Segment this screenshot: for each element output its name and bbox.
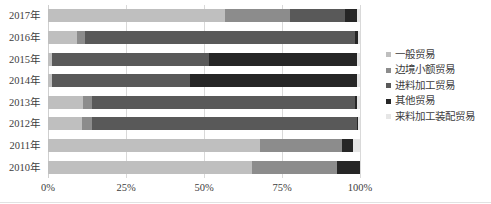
- bar-segment: [290, 9, 345, 22]
- x-axis-label-50pct: 50%: [194, 182, 213, 194]
- legend-label: 来料加工装配贸易: [395, 111, 475, 123]
- legend-item[interactable]: 一般贸易: [386, 47, 490, 63]
- bar-segment: [48, 139, 260, 152]
- bar-segment: [357, 53, 360, 66]
- legend-item[interactable]: 其他贸易: [386, 94, 490, 110]
- stacked-bar-chart: 2017年2016年2015年2014年2013年2012年2011年2010年…: [0, 0, 491, 204]
- bar-row: [48, 31, 360, 44]
- y-axis-label-2012: 2012年: [9, 118, 40, 129]
- bar-segment: [77, 31, 85, 44]
- bar-segment: [345, 9, 357, 22]
- x-axis-label-100pct: 100%: [348, 182, 373, 194]
- bar-segment: [209, 53, 357, 66]
- bar-row: [48, 9, 360, 22]
- bar-segment: [52, 74, 190, 87]
- legend-label: 边境小额贸易: [395, 64, 455, 76]
- bar-segment: [92, 117, 357, 130]
- bar-segment: [358, 31, 360, 44]
- bar-segment: [48, 31, 77, 44]
- plot-area: [48, 5, 360, 178]
- legend-swatch-icon: [386, 114, 391, 119]
- chart-legend: 一般贸易边境小额贸易进料加工贸易其他贸易来料加工装配贸易: [386, 47, 490, 125]
- bar-segment: [83, 96, 92, 109]
- x-axis-label-0pct: 0%: [41, 182, 55, 194]
- legend-label: 其他贸易: [395, 95, 435, 107]
- legend-swatch-icon: [386, 68, 391, 73]
- y-axis-label-2011: 2011年: [9, 140, 40, 151]
- bar-segment: [353, 139, 360, 152]
- gridline-100pct: [360, 5, 361, 178]
- bar-segment: [48, 117, 82, 130]
- legend-item[interactable]: 进料加工贸易: [386, 78, 490, 94]
- bar-segment: [225, 9, 290, 22]
- legend-item[interactable]: 边境小额贸易: [386, 63, 490, 79]
- figure-baseline: [0, 202, 491, 203]
- y-axis-label-2016: 2016年: [9, 32, 40, 43]
- x-axis-tick-labels: 0%25%50%75%100%: [0, 182, 491, 198]
- bar-segment: [337, 161, 360, 174]
- y-axis-label-2015: 2015年: [9, 54, 40, 65]
- y-axis-label-2013: 2013年: [9, 97, 40, 108]
- legend-label: 一般贸易: [395, 49, 435, 61]
- bar-row: [48, 53, 360, 66]
- bar-segment: [260, 139, 342, 152]
- bar-segment: [357, 96, 359, 109]
- bar-segment: [48, 96, 83, 109]
- bar-rows: [48, 5, 360, 178]
- bar-segment: [252, 161, 337, 174]
- legend-item[interactable]: 来料加工装配贸易: [386, 109, 490, 125]
- bar-segment: [358, 117, 360, 130]
- legend-swatch-icon: [386, 52, 391, 57]
- bar-segment: [82, 117, 92, 130]
- bar-segment: [190, 74, 357, 87]
- bar-segment: [85, 31, 355, 44]
- bar-segment: [357, 9, 360, 22]
- bar-segment: [357, 74, 360, 87]
- y-axis-label-2014: 2014年: [9, 75, 40, 86]
- bar-segment: [92, 96, 355, 109]
- bar-segment: [52, 53, 209, 66]
- bar-row: [48, 117, 360, 130]
- bar-row: [48, 139, 360, 152]
- y-axis-tick-labels: 2017年2016年2015年2014年2013年2012年2011年2010年: [0, 5, 44, 178]
- legend-swatch-icon: [386, 99, 391, 104]
- legend-swatch-icon: [386, 83, 391, 88]
- bar-segment: [48, 9, 225, 22]
- bar-row: [48, 74, 360, 87]
- bar-row: [48, 161, 360, 174]
- bar-row: [48, 96, 360, 109]
- x-axis-label-25pct: 25%: [116, 182, 135, 194]
- x-axis-label-75pct: 75%: [272, 182, 291, 194]
- bar-segment: [48, 161, 252, 174]
- y-axis-label-2010: 2010年: [9, 162, 40, 173]
- bar-segment: [342, 139, 353, 152]
- legend-label: 进料加工贸易: [395, 80, 455, 92]
- y-axis-label-2017: 2017年: [9, 10, 40, 21]
